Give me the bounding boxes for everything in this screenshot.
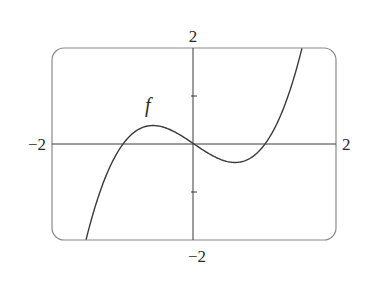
y-max-label: 2 <box>189 27 198 46</box>
x-min-label: −2 <box>28 135 46 154</box>
function-label-f: f <box>145 94 153 117</box>
function-graph: f 2 −2 −2 2 <box>0 0 391 281</box>
y-min-label: −2 <box>188 247 206 266</box>
x-max-label: 2 <box>342 135 351 154</box>
